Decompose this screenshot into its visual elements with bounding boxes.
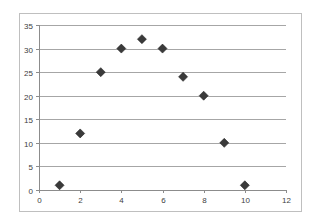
y-tick-label: 25	[24, 69, 33, 78]
chart-border	[20, 14, 302, 212]
y-tick-label: 20	[24, 93, 33, 102]
x-tick-label: 12	[282, 196, 291, 205]
y-tick-label: 35	[24, 22, 33, 31]
y-tick-label: 30	[24, 46, 33, 55]
scatter-chart: 05101520253035 024681012	[0, 0, 312, 220]
y-tick-label: 10	[24, 140, 33, 149]
x-tick-label: 10	[241, 196, 250, 205]
x-tick-label: 4	[119, 196, 124, 205]
y-tick-label: 0	[29, 187, 34, 196]
x-tick-label: 6	[161, 196, 166, 205]
y-tick-label: 15	[24, 116, 33, 125]
x-tick-label: 2	[78, 196, 83, 205]
x-tick-label: 8	[202, 196, 207, 205]
x-tick-label: 0	[37, 196, 42, 205]
y-tick-label: 5	[29, 163, 34, 172]
chart-canvas: 05101520253035 024681012	[0, 0, 312, 220]
